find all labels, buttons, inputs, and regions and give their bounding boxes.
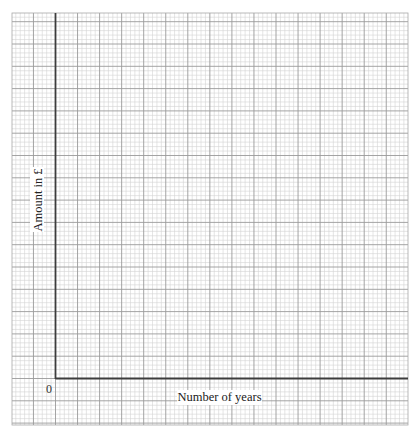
y-axis-label-box: Amount in £ — [30, 167, 44, 232]
major-grid — [12, 13, 408, 425]
y-axis-label: Amount in £ — [30, 167, 44, 232]
origin-label: 0 — [46, 383, 52, 395]
x-axis-label: Number of years — [177, 390, 262, 405]
graph-paper — [0, 0, 419, 438]
